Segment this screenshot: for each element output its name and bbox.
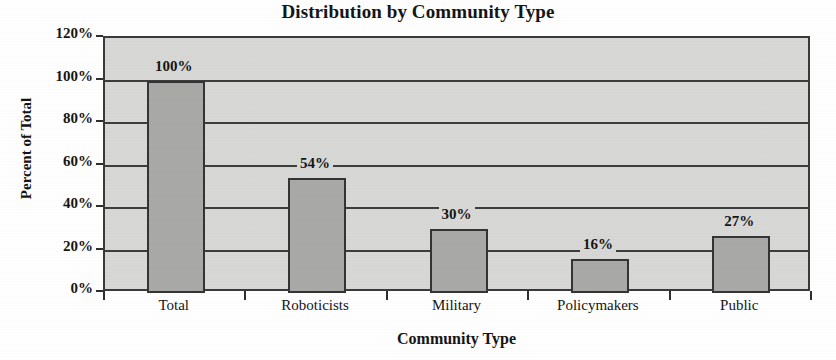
y-tick-label: 120% bbox=[56, 25, 94, 42]
bar-value-label: 100% bbox=[129, 58, 219, 75]
x-axis-category-label: Roboticists bbox=[244, 297, 385, 314]
bar-value-label: 27% bbox=[694, 213, 784, 230]
y-tick-mark bbox=[96, 290, 103, 292]
bar-value-text: 100% bbox=[152, 58, 196, 75]
y-tick-label: 100% bbox=[56, 68, 94, 85]
bar-value-label: 54% bbox=[270, 155, 360, 172]
x-axis-category-label: Total bbox=[103, 297, 244, 314]
x-axis-title: Community Type bbox=[103, 330, 810, 348]
x-tick-mark bbox=[810, 291, 812, 300]
y-tick-label: 40% bbox=[63, 195, 93, 212]
bar-value-text: 30% bbox=[439, 206, 475, 223]
x-axis-category-label: Military bbox=[386, 297, 527, 314]
bar-value-text: 54% bbox=[297, 155, 333, 172]
x-axis-category-label: Public bbox=[669, 297, 810, 314]
bar-value-text: 16% bbox=[580, 236, 616, 253]
y-tick-mark bbox=[96, 78, 103, 80]
bar-value-label: 30% bbox=[412, 206, 502, 223]
y-tick-label: 0% bbox=[71, 280, 94, 297]
bar-chart: Distribution by Community Type Percent o… bbox=[0, 0, 836, 360]
bar-value-label: 16% bbox=[553, 236, 643, 253]
y-tick-label: 20% bbox=[63, 238, 93, 255]
bar-value-text: 27% bbox=[721, 213, 757, 230]
y-tick-mark bbox=[96, 163, 103, 165]
y-tick-mark bbox=[96, 120, 103, 122]
y-tick-label: 80% bbox=[63, 110, 93, 127]
y-tick-mark bbox=[96, 248, 103, 250]
y-tick-mark bbox=[96, 205, 103, 207]
y-tick-label: 60% bbox=[63, 153, 93, 170]
y-tick-mark bbox=[96, 35, 103, 37]
x-axis-category-label: Policymakers bbox=[527, 297, 668, 314]
